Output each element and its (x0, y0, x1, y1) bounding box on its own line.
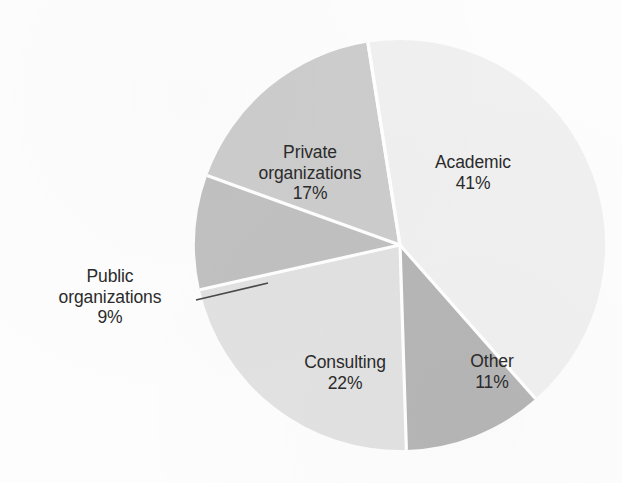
slice-label-academic: Academic 41% (417, 152, 529, 193)
slice-label-academic-value: 41% (417, 173, 529, 194)
slice-label-private-organizations-name-line2: organizations (259, 163, 362, 183)
slice-label-consulting: Consulting 22% (283, 352, 407, 393)
slice-label-other-name: Other (451, 351, 533, 372)
slice-label-private-organizations-value: 17% (230, 183, 390, 204)
slice-label-public-organizations-value: 9% (22, 307, 198, 328)
pie-chart-figure: Academic 41% Private organizations 17% P… (0, 0, 622, 483)
slice-label-public-organizations-name-line1: Public (22, 266, 198, 287)
slice-label-public-organizations-name-line2: organizations (22, 287, 198, 308)
slice-label-consulting-value: 22% (283, 373, 407, 394)
slice-label-academic-name: Academic (417, 152, 529, 173)
slice-label-public-organizations: Public organizations 9% (22, 266, 198, 328)
pie-chart-svg (0, 0, 622, 483)
slice-label-consulting-name: Consulting (283, 352, 407, 373)
slice-label-other: Other 11% (451, 351, 533, 392)
slice-label-private-organizations-name-line1: Private (230, 142, 390, 163)
chart-area: Academic 41% Private organizations 17% P… (0, 0, 622, 483)
slice-label-private-organizations: Private organizations 17% (230, 142, 390, 204)
slice-label-other-value: 11% (451, 372, 533, 393)
